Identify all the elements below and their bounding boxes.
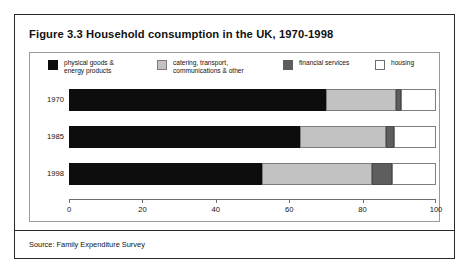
bar-row: 1998 — [30, 161, 441, 187]
bar-segment-financial — [372, 163, 392, 185]
bar-segment-catering — [300, 126, 386, 148]
bar-track — [69, 89, 436, 111]
legend-swatch-catering-transport — [157, 60, 167, 70]
x-axis-tick-label-80: 80 — [358, 205, 366, 214]
x-axis: 020406080100 — [69, 199, 436, 221]
bar-segment-catering — [262, 163, 372, 185]
x-axis-tick — [289, 199, 290, 203]
bar-segment-housing — [401, 89, 436, 111]
source-note: Source: Family Expenditure Survey — [29, 240, 145, 249]
legend-swatch-financial-services — [283, 60, 293, 70]
legend-item-physical-goods: physical goods & energy products — [48, 59, 114, 74]
bar-row: 1970 — [30, 87, 441, 113]
x-axis-tick-label-100: 100 — [430, 205, 443, 214]
legend-label-financial-services: financial services — [299, 59, 349, 67]
legend-label-housing: housing — [391, 59, 414, 67]
x-axis-tick-label-40: 40 — [212, 205, 220, 214]
bar-segment-goods — [69, 126, 300, 148]
legend-item-financial-services: financial services — [283, 59, 349, 70]
bar-track — [69, 126, 436, 148]
legend-swatch-housing — [375, 60, 385, 70]
x-axis-tick — [216, 199, 217, 203]
x-axis-tick-label-60: 60 — [285, 205, 293, 214]
bar-segment-goods — [69, 89, 326, 111]
year-label-1970: 1970 — [34, 87, 64, 113]
figure-card: Figure 3.3 Household consumption in the … — [14, 14, 455, 259]
bar-segment-financial — [386, 126, 393, 148]
bar-segment-housing — [394, 126, 436, 148]
year-label-1998: 1998 — [34, 161, 64, 187]
year-label-1985: 1985 — [34, 124, 64, 150]
legend-item-catering-transport: catering, transport, communications & ot… — [157, 59, 244, 74]
x-axis-tick — [142, 199, 143, 203]
bar-row: 1985 — [30, 124, 441, 150]
bars-area: 197019851998 — [30, 87, 441, 193]
page-title: Figure 3.3 Household consumption in the … — [29, 28, 333, 40]
x-axis-tick — [435, 199, 436, 203]
x-axis-tick-label-20: 20 — [138, 205, 146, 214]
x-axis-tick — [363, 199, 364, 203]
x-axis-tick — [69, 199, 70, 203]
bar-segment-goods — [69, 163, 262, 185]
x-axis-line — [69, 199, 436, 200]
chart-legend: physical goods & energy products caterin… — [30, 59, 441, 87]
bar-segment-catering — [326, 89, 396, 111]
legend-label-physical-goods: physical goods & energy products — [64, 59, 114, 74]
legend-swatch-physical-goods — [48, 60, 58, 70]
x-axis-tick-label-0: 0 — [67, 205, 71, 214]
legend-item-housing: housing — [375, 59, 414, 70]
divider — [15, 230, 454, 231]
legend-label-catering-transport: catering, transport, communications & ot… — [173, 59, 244, 74]
bar-segment-housing — [392, 163, 436, 185]
plot-area: physical goods & energy products caterin… — [29, 52, 440, 222]
bar-track — [69, 163, 436, 185]
